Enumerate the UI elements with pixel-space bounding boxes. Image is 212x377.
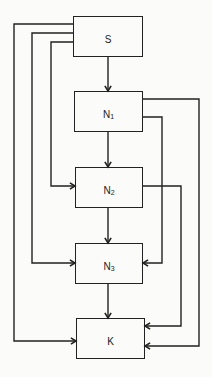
node-k-label: K [107, 336, 114, 347]
edge-s-to-n2 [51, 42, 75, 189]
node-s-label: S [105, 34, 112, 45]
block-diagram: S N1 N2 N3 K [0, 0, 212, 377]
node-n1: N1 [74, 91, 143, 132]
edge-s-to-n3 [32, 33, 75, 266]
node-k: K [76, 318, 145, 359]
edge-n1-to-k [143, 99, 199, 349]
edge-n1-to-n3 [143, 117, 162, 266]
node-s: S [73, 16, 143, 57]
node-n1-subscript: 1 [110, 113, 114, 120]
node-n3: N3 [75, 243, 143, 284]
edge-s-to-k [14, 24, 76, 344]
edge-n3-to-k [105, 284, 111, 318]
node-n3-subscript: 3 [111, 265, 115, 272]
edge-s-to-n1 [105, 57, 111, 91]
node-n2: N2 [75, 167, 143, 208]
node-n3-label: N [103, 261, 110, 272]
node-n2-subscript: 2 [111, 189, 115, 196]
edge-n2-to-n3 [105, 208, 111, 243]
edge-n1-to-n2 [105, 132, 111, 167]
node-n2-label: N [103, 185, 110, 196]
